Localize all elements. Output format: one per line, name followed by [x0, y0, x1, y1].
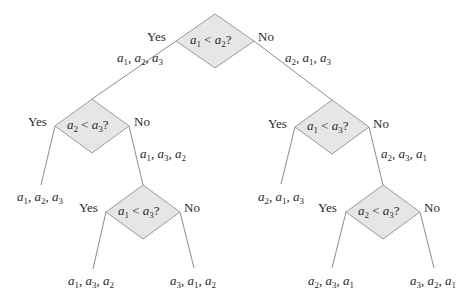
leaf-permutation-label: a3, a2, a1	[410, 274, 456, 290]
tree-edge	[420, 212, 434, 268]
tree-edge	[180, 212, 194, 268]
tree-edge	[41, 126, 55, 185]
yes-branch-label: Yes	[318, 201, 337, 214]
edge-permutation-label: a1, a3, a2	[140, 147, 186, 163]
tree-edge	[332, 212, 346, 268]
edge-permutation-label: a2, a3, a1	[381, 147, 427, 163]
decision-question: a2 < a3?	[358, 204, 400, 220]
decision-tree-diagram: a1 < a2?a2 < a3?a1 < a3?a1 < a3?a2 < a3?…	[0, 0, 470, 297]
decision-question: a1 < a2?	[190, 33, 232, 49]
decision-question: a1 < a3?	[118, 204, 160, 220]
no-branch-label: No	[184, 201, 200, 214]
yes-branch-label: Yes	[147, 30, 166, 43]
no-branch-label: No	[373, 117, 389, 130]
no-branch-label: No	[134, 115, 150, 128]
yes-branch-label: Yes	[268, 117, 287, 130]
edge-permutation-label: a1, a2, a3	[117, 51, 163, 67]
yes-branch-label: Yes	[79, 201, 98, 214]
tree-edge	[281, 127, 295, 184]
decision-question: a2 < a3?	[67, 118, 109, 134]
leaf-permutation-label: a2, a1, a3	[258, 190, 304, 206]
edge-permutation-label: a2, a1, a3	[285, 51, 331, 67]
tree-edge	[93, 212, 106, 269]
decision-question: a1 < a3?	[307, 119, 349, 135]
no-branch-label: No	[424, 201, 440, 214]
no-branch-label: No	[258, 30, 274, 43]
leaf-permutation-label: a3, a1, a2	[170, 274, 216, 290]
leaf-permutation-label: a1, a2, a3	[17, 190, 63, 206]
leaf-permutation-label: a1, a3, a2	[68, 274, 114, 290]
leaf-permutation-label: a2, a3, a1	[308, 274, 354, 290]
yes-branch-label: Yes	[28, 115, 47, 128]
